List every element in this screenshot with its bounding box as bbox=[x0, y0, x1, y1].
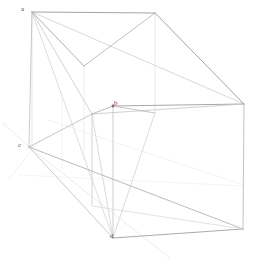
edge-c-inner-corner bbox=[29, 114, 92, 147]
edge-c-right-lower bbox=[29, 147, 243, 229]
vertex-label-c: c bbox=[18, 142, 21, 149]
construction-line-lower-left bbox=[8, 140, 40, 180]
edge-a-apex bbox=[32, 12, 155, 13]
wireframe-figure bbox=[0, 0, 257, 260]
vertex-label-d: d bbox=[110, 233, 114, 240]
edge-a-mid-left bbox=[32, 12, 84, 66]
vertex-label-b: b bbox=[114, 100, 118, 107]
edge-a-d bbox=[32, 12, 113, 238]
construction-line-right-sweep bbox=[48, 120, 244, 185]
edge-c-d bbox=[29, 147, 113, 238]
vertex-label-a: a bbox=[21, 6, 24, 13]
box-edges bbox=[29, 12, 244, 238]
construction-lines bbox=[3, 12, 244, 258]
edge-d-right-lower bbox=[113, 229, 243, 238]
edge-inner-lower-right bbox=[92, 206, 243, 229]
edge-apex-base-d bbox=[113, 113, 155, 238]
edge-a-c bbox=[29, 12, 32, 147]
edge-right-upper-right-lower bbox=[243, 104, 244, 229]
construction-line-horizon bbox=[20, 175, 243, 186]
axis-line-left bbox=[3, 123, 29, 147]
drawing-canvas: a b c d bbox=[0, 0, 257, 260]
edge-inner-corner-d bbox=[92, 114, 113, 238]
axis-line-diagonal bbox=[29, 147, 170, 258]
edge-apex-right-upper bbox=[155, 13, 244, 104]
